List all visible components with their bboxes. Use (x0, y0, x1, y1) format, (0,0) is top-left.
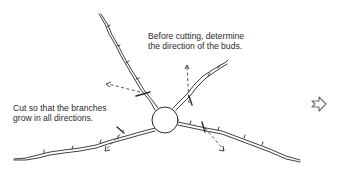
branch-upper-left (99, 14, 158, 110)
trunk-cross-section (152, 107, 178, 133)
next-arrow-icon[interactable] (309, 94, 329, 114)
caption-cut-directions: Cut so that the branches grow in all dir… (13, 103, 107, 123)
pruning-diagram (0, 0, 344, 176)
caption-cut-directions-line2: grow in all directions. (13, 113, 107, 123)
caption-bud-direction: Before cutting, determine the direction … (148, 31, 244, 51)
branch-lower-right (178, 121, 300, 162)
caption-cut-directions-line1: Cut so that the branches (13, 103, 107, 113)
caption-bud-direction-line2: the direction of the buds. (148, 41, 244, 51)
branch-lower-left (14, 128, 155, 160)
caption-bud-direction-line1: Before cutting, determine (148, 31, 244, 41)
branch-upper-right (173, 60, 228, 110)
